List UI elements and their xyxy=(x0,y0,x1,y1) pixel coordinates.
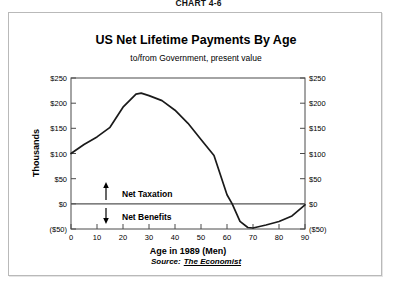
plot-frame xyxy=(71,78,305,229)
y-tick-label: $150 xyxy=(50,124,67,133)
y-tick-label: $150 xyxy=(309,124,326,133)
annotation-label: Net Taxation xyxy=(122,189,172,199)
y-axis-right-labels: $250 $200 $150 $100 $50 $0 ($50) xyxy=(309,74,327,234)
annotation-label: Net Benefits xyxy=(122,212,172,222)
x-tick-label: 0 xyxy=(69,233,73,242)
y-tick-label: ($50) xyxy=(49,225,67,234)
x-axis-labels: 0 10 20 30 40 50 60 70 80 90 xyxy=(69,233,309,242)
y-tick-label: $250 xyxy=(309,74,326,83)
y-tick-label: ($50) xyxy=(309,225,327,234)
chart-number-caption: CHART 4-6 xyxy=(0,0,397,8)
y-tick-label: $100 xyxy=(309,150,326,159)
y-tick-label: $50 xyxy=(309,175,322,184)
x-tick-label: 30 xyxy=(145,233,153,242)
source-line: Source:The Economist xyxy=(9,257,383,266)
x-axis-title: Age in 1989 (Men) xyxy=(150,246,227,256)
y-tick-label: $250 xyxy=(50,74,67,83)
y-tick-label: $200 xyxy=(309,99,326,108)
source-label: Source: xyxy=(151,257,181,266)
y-tick-label: $100 xyxy=(50,150,67,159)
x-tick-label: 40 xyxy=(171,233,179,242)
source-name: The Economist xyxy=(184,257,241,266)
y-tick-label: $0 xyxy=(59,200,67,209)
x-tick-label: 90 xyxy=(301,233,309,242)
x-tick-label: 20 xyxy=(119,233,127,242)
y-axis-left-labels: $250 $200 $150 $100 $50 $0 ($50) xyxy=(49,74,67,234)
y-axis-left-title: Thousands xyxy=(31,129,41,177)
x-tick-label: 50 xyxy=(197,233,205,242)
chart-figure: CHART 4-6 US Net Lifetime Payments By Ag… xyxy=(0,0,397,289)
x-tick-label: 70 xyxy=(249,233,257,242)
x-tick-label: 60 xyxy=(223,233,231,242)
chart-svg: $250 $200 $150 $100 $50 $0 ($50) $250 $2… xyxy=(9,13,383,277)
y-tick-label: $200 xyxy=(50,99,67,108)
x-tick-label: 80 xyxy=(275,233,283,242)
y-tick-label: $50 xyxy=(54,175,67,184)
x-tick-label: 10 xyxy=(93,233,101,242)
plot-area: $250 $200 $150 $100 $50 $0 ($50) $250 $2… xyxy=(9,13,383,277)
chart-card: US Net Lifetime Payments By Age to/from … xyxy=(8,12,382,276)
y-tick-label: $0 xyxy=(309,200,317,209)
